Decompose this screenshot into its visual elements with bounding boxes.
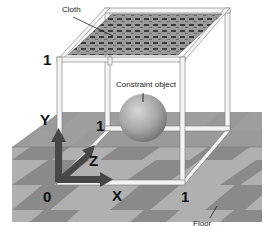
x-max-tick-label: 1 (181, 188, 189, 205)
floor-label: Floor (193, 219, 211, 228)
origin-label: 0 (43, 188, 51, 205)
constraint-object-label: Constraint object (116, 80, 176, 89)
y-max-tick-label: 1 (43, 51, 51, 68)
y-axis-label: Y (40, 111, 50, 128)
z-axis-label: Z (89, 152, 98, 169)
x-axis-label: X (112, 187, 122, 204)
cloth-simulation-diagram: Cloth Constraint object Floor 1 Y 1 Z 0 … (0, 0, 269, 240)
cloth (68, 14, 222, 55)
z-max-tick-label: 1 (96, 117, 104, 134)
cloth-label: Cloth (62, 5, 81, 14)
